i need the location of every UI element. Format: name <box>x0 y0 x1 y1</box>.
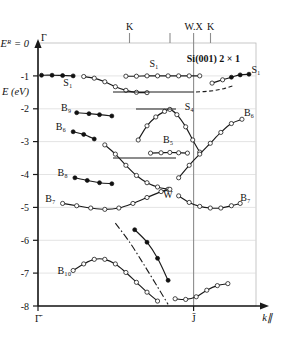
band-structure-figure: -1 -2 -3 -4 -5 -6 -7 -8 Eᴿ = 0 E (eV) k∥… <box>0 0 288 351</box>
data-point <box>145 74 149 78</box>
data-point <box>238 73 242 77</box>
y-tick-label: -3 <box>21 136 29 147</box>
x-tick-label-j: J̄ <box>192 313 196 324</box>
data-point <box>75 204 79 208</box>
band-label: S₁ <box>63 77 72 88</box>
band-label: B₁₀ <box>58 265 72 276</box>
figure-background <box>0 0 288 351</box>
band-label: B₉ <box>61 102 72 113</box>
data-point <box>185 151 189 155</box>
data-point <box>82 74 86 78</box>
band-label: S₁ <box>251 64 260 75</box>
data-point <box>145 195 149 199</box>
data-point <box>215 284 219 288</box>
band-label: S₁ <box>149 58 158 69</box>
data-point <box>175 113 179 117</box>
data-point <box>134 280 138 284</box>
data-point <box>155 185 159 189</box>
data-point <box>229 204 233 208</box>
data-point <box>187 74 191 78</box>
data-point <box>184 125 188 129</box>
data-point <box>194 295 198 299</box>
data-point <box>145 290 149 294</box>
data-point <box>98 181 102 185</box>
data-point <box>92 76 96 80</box>
data-point <box>71 130 75 134</box>
data-point <box>145 240 149 244</box>
data-point <box>124 163 128 167</box>
data-point <box>177 194 181 198</box>
data-point <box>134 173 138 177</box>
data-point <box>187 163 191 167</box>
y-tick-label: -1 <box>21 71 29 82</box>
data-point <box>92 257 96 261</box>
data-point <box>124 270 128 274</box>
band-label: S₄ <box>185 101 195 112</box>
data-point <box>145 124 149 128</box>
y-tick-label: -7 <box>21 268 29 279</box>
data-point <box>229 121 233 125</box>
data-point <box>168 150 172 154</box>
band-label: B₇ <box>45 193 55 204</box>
data-point <box>103 143 107 147</box>
data-point <box>173 297 177 301</box>
data-point <box>92 137 96 141</box>
data-point <box>208 141 212 145</box>
data-point <box>177 151 181 155</box>
data-point <box>184 297 188 301</box>
data-point <box>75 111 79 115</box>
top-label-k-left: K <box>126 21 134 32</box>
data-point <box>166 278 170 282</box>
y-tick-label: -6 <box>21 235 29 246</box>
data-point <box>73 176 77 180</box>
data-point <box>208 206 212 210</box>
data-point <box>191 138 195 142</box>
data-point <box>247 72 251 76</box>
band-label: B₈ <box>58 167 69 178</box>
data-point <box>133 228 137 232</box>
data-point <box>82 132 86 136</box>
data-point <box>219 130 223 134</box>
data-point <box>131 201 135 205</box>
y-axis-title: E (eV) <box>1 86 30 98</box>
data-point <box>198 74 202 78</box>
data-point <box>136 138 140 142</box>
chart-canvas: -1 -2 -3 -4 -5 -6 -7 -8 Eᴿ = 0 E (eV) k∥… <box>0 0 288 351</box>
data-point <box>177 74 181 78</box>
chart-title: Si(001) 2 × 1 <box>187 53 240 65</box>
data-point <box>110 114 114 118</box>
y-tick-label: -2 <box>21 103 29 114</box>
data-point <box>82 262 86 266</box>
data-point <box>210 81 214 85</box>
data-point <box>113 262 117 266</box>
y-tick-label: -8 <box>21 301 29 312</box>
data-point <box>145 181 149 185</box>
data-point <box>159 151 163 155</box>
data-point <box>154 115 158 119</box>
data-point <box>166 74 170 78</box>
data-point <box>177 176 181 180</box>
data-point <box>87 112 91 116</box>
data-point <box>124 74 128 78</box>
data-point <box>85 178 89 182</box>
data-point <box>98 113 102 117</box>
y-tick-label: -4 <box>21 169 29 180</box>
data-point <box>205 288 209 292</box>
top-label-k-right: K <box>207 21 215 32</box>
y-tick-label: -5 <box>21 202 29 213</box>
band-label: B₆ <box>244 107 255 118</box>
data-point <box>219 206 223 210</box>
data-point <box>229 75 233 79</box>
band-label: B₆ <box>56 121 67 132</box>
data-point <box>113 152 117 156</box>
data-point <box>226 282 230 286</box>
data-point <box>50 73 54 77</box>
fermi-level-label: Eᴿ = 0 <box>0 38 30 49</box>
data-point <box>156 256 160 260</box>
data-point <box>89 206 93 210</box>
x-axis-title: k∥ <box>262 312 273 324</box>
top-label-gamma: Γ <box>41 32 47 43</box>
data-point <box>134 74 138 78</box>
data-point <box>145 91 149 95</box>
data-point <box>40 73 44 77</box>
